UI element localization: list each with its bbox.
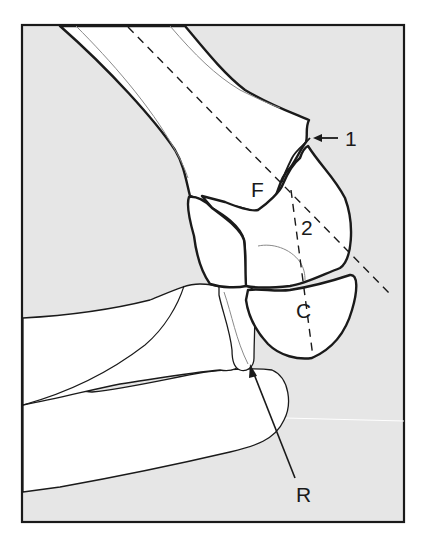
label-r: R: [296, 483, 311, 506]
label-c: C: [296, 299, 311, 322]
label-1: 1: [345, 127, 357, 150]
elbow-fracture-diagram: 1 F 2 C R: [0, 0, 422, 549]
label-f: F: [251, 178, 264, 201]
label-2: 2: [301, 216, 313, 239]
